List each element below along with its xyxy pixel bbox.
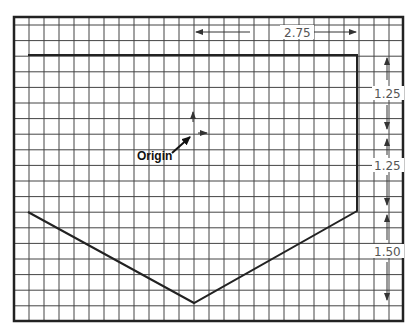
sketch-canvas: Origin 2.75 1.25 1.25 1.50 — [0, 0, 417, 334]
dimension-horizontal[interactable]: 2.75 — [196, 25, 356, 40]
origin-label: Origin — [137, 149, 172, 163]
dimension-label-top: 1.25 — [374, 87, 401, 101]
grid — [14, 17, 403, 321]
origin-pointer-arrow — [172, 137, 190, 153]
sketch-profile[interactable] — [28, 55, 357, 303]
dimension-label-bottom: 1.50 — [374, 245, 401, 259]
dimension-label-middle: 1.25 — [374, 159, 401, 173]
origin-icon — [193, 112, 207, 133]
dimension-vertical-2[interactable]: 1.25 — [372, 139, 404, 205]
dimension-label-width: 2.75 — [284, 26, 311, 40]
